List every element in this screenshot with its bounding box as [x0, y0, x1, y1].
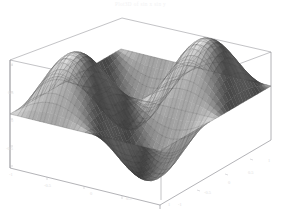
y-tick-label-0: -1	[178, 202, 182, 207]
y-tick-label-1: -0.5	[204, 190, 211, 195]
x-tick-label-0: -0.5	[44, 183, 51, 188]
x-tick-label-3: 1	[168, 202, 170, 207]
surface-plot-figure: Plot3D of sin x sin y	[0, 0, 281, 215]
y-tick-label-4: 1	[268, 158, 270, 163]
z-tick-label-0: 1	[11, 62, 13, 67]
z-tick-label-3: -0.5	[6, 146, 13, 151]
z-tick-label-4: -1	[9, 172, 13, 177]
y-tick-label-3: 0.5	[248, 170, 254, 175]
plot-canvas	[0, 0, 281, 215]
z-tick-label-1: 0.5	[8, 90, 14, 95]
x-tick-label-1: 0	[90, 191, 92, 196]
z-tick-label-2: 0	[11, 118, 13, 123]
y-tick-label-2: 0	[228, 180, 230, 185]
x-tick-label-2: 0.5	[126, 196, 132, 201]
surface-mesh	[10, 38, 271, 181]
